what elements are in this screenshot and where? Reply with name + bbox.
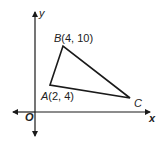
- origin-label: O: [25, 111, 34, 123]
- vertex-a-coords: (2, 4): [48, 90, 74, 102]
- vertex-a-letter: A: [40, 90, 48, 102]
- y-axis-label: y: [38, 7, 46, 19]
- vertex-c-label: C: [134, 97, 142, 109]
- x-axis-label: x: [148, 112, 156, 124]
- vertex-b-coords: (4, 10): [61, 32, 93, 44]
- coordinate-plane: y x O B(4, 10) A(2, 4) C: [0, 0, 157, 143]
- vertex-a-label: A(2, 4): [40, 90, 74, 102]
- vertex-b-label: B(4, 10): [54, 32, 93, 44]
- vertex-b-letter: B: [54, 32, 61, 44]
